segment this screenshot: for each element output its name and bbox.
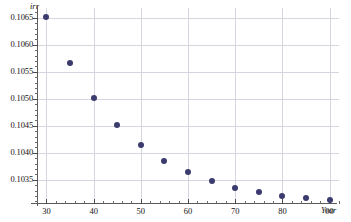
y-axis-minor-tick xyxy=(35,201,38,202)
y-axis-tick-label: 0.1040 xyxy=(0,147,33,157)
x-axis-minor-tick xyxy=(264,201,265,204)
x-axis-minor-tick xyxy=(113,201,114,204)
y-axis-minor-tick xyxy=(35,77,38,78)
y-axis-minor-tick xyxy=(35,93,38,94)
x-axis-minor-tick xyxy=(207,201,208,204)
y-axis-minor-tick xyxy=(35,88,38,89)
y-axis-minor-tick xyxy=(35,34,38,35)
y-axis-minor-tick xyxy=(35,174,38,175)
x-axis-tick xyxy=(235,199,236,204)
x-axis-tick xyxy=(282,199,283,204)
y-axis-tick xyxy=(33,72,38,73)
x-axis-minor-tick xyxy=(84,201,85,204)
x-axis-minor-tick xyxy=(254,201,255,204)
y-axis-minor-tick xyxy=(35,196,38,197)
y-axis-minor-tick xyxy=(35,104,38,105)
y-axis-minor-tick xyxy=(35,131,38,132)
y-axis-tick-label: 0.1055 xyxy=(0,66,33,76)
y-axis-minor-tick xyxy=(35,12,38,13)
x-axis-tick xyxy=(94,199,95,204)
y-axis-minor-tick xyxy=(35,120,38,121)
y-axis-minor-tick xyxy=(35,185,38,186)
data-point xyxy=(303,195,309,201)
x-axis-minor-tick xyxy=(150,201,151,204)
x-axis-minor-tick xyxy=(311,201,312,204)
data-point xyxy=(114,122,120,128)
y-axis-tick xyxy=(33,180,38,181)
x-axis-minor-tick xyxy=(273,201,274,204)
y-axis-minor-tick xyxy=(35,147,38,148)
y-axis-minor-tick xyxy=(35,191,38,192)
y-axis-tick-label: 0.1050 xyxy=(0,93,33,103)
gridline-vertical xyxy=(46,8,47,204)
x-axis-tick-label: 50 xyxy=(131,206,151,216)
irr-vs-year-scatter-chart: irr Year 0.10350.10400.10450.10500.10550… xyxy=(0,0,351,222)
y-axis-tick xyxy=(33,99,38,100)
x-axis-tick-label: 80 xyxy=(272,206,292,216)
y-axis-minor-tick xyxy=(35,142,38,143)
x-axis-minor-tick xyxy=(320,201,321,204)
x-axis-minor-tick xyxy=(75,201,76,204)
y-axis-minor-tick xyxy=(35,169,38,170)
x-axis-tick-label: 90 xyxy=(320,206,340,216)
y-axis-tick-label: 0.1045 xyxy=(0,120,33,130)
x-axis-minor-tick xyxy=(339,201,340,204)
x-axis-minor-tick xyxy=(103,201,104,204)
y-axis-tick xyxy=(33,153,38,154)
gridline-vertical xyxy=(235,8,236,204)
y-axis-minor-tick xyxy=(35,158,38,159)
y-axis-tick-label: 0.1065 xyxy=(0,12,33,22)
x-axis-minor-tick xyxy=(292,201,293,204)
data-point xyxy=(138,142,144,148)
x-axis-tick xyxy=(141,199,142,204)
y-axis-minor-tick xyxy=(35,23,38,24)
x-axis-tick xyxy=(188,199,189,204)
x-axis-minor-tick xyxy=(122,201,123,204)
data-point xyxy=(209,178,215,184)
x-axis-tick-label: 70 xyxy=(225,206,245,216)
x-axis-minor-tick xyxy=(56,201,57,204)
data-point xyxy=(327,197,333,203)
y-axis-minor-tick xyxy=(35,56,38,57)
gridline-vertical xyxy=(141,8,142,204)
y-axis-tick xyxy=(33,18,38,19)
x-axis-minor-tick xyxy=(216,201,217,204)
x-axis-minor-tick xyxy=(197,201,198,204)
x-axis-tick-label: 60 xyxy=(178,206,198,216)
gridline-vertical xyxy=(282,8,283,204)
x-axis-minor-tick xyxy=(245,201,246,204)
data-point xyxy=(91,95,97,101)
x-axis-minor-tick xyxy=(226,201,227,204)
y-axis-minor-tick xyxy=(35,137,38,138)
y-axis-minor-tick xyxy=(35,50,38,51)
y-axis-line xyxy=(37,6,38,206)
x-axis-minor-tick xyxy=(169,201,170,204)
y-axis-minor-tick xyxy=(35,39,38,40)
x-axis-minor-tick xyxy=(65,201,66,204)
y-axis-minor-tick xyxy=(35,61,38,62)
y-axis-tick-label: 0.1035 xyxy=(0,174,33,184)
y-axis-minor-tick xyxy=(35,83,38,84)
x-axis-minor-tick xyxy=(179,201,180,204)
x-axis-minor-tick xyxy=(131,201,132,204)
x-axis-tick-label: 30 xyxy=(36,206,56,216)
y-axis-tick-label: 0.1060 xyxy=(0,39,33,49)
x-axis-tick-label: 40 xyxy=(84,206,104,216)
gridline-vertical xyxy=(94,8,95,204)
data-point xyxy=(232,185,238,191)
y-axis-tick xyxy=(33,45,38,46)
data-point xyxy=(67,60,73,66)
x-axis-minor-tick xyxy=(301,201,302,204)
x-axis-tick xyxy=(46,199,47,204)
y-axis-minor-tick xyxy=(35,29,38,30)
x-axis-minor-tick xyxy=(160,201,161,204)
data-point xyxy=(256,189,262,195)
y-axis-minor-tick xyxy=(35,115,38,116)
y-axis-minor-tick xyxy=(35,164,38,165)
y-axis-tick xyxy=(33,126,38,127)
gridline-vertical xyxy=(330,8,331,204)
y-axis-minor-tick xyxy=(35,110,38,111)
y-axis-minor-tick xyxy=(35,66,38,67)
